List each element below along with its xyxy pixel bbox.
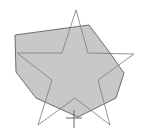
diagram-canvas <box>0 0 149 138</box>
diagram-svg <box>0 0 149 138</box>
gray-polygon <box>15 25 124 117</box>
